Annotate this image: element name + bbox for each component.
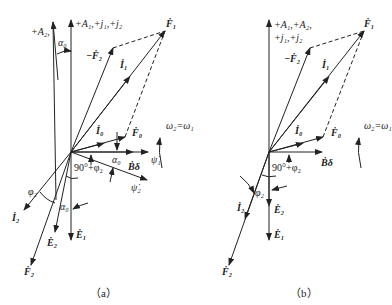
a-label-alpha0-top: α₀	[58, 38, 67, 48]
a-label-psi1: ψ̇₁	[151, 155, 161, 165]
a-label-I1: İ₁	[120, 60, 127, 70]
b-omega-arc	[358, 138, 361, 168]
a-label-E1: Ė₁	[76, 230, 86, 240]
a-label-90-phi2: 90°+φ₂	[74, 163, 103, 173]
a-label-F0: Ḟ₀	[132, 128, 142, 138]
b-label-phi2: φ₂	[255, 188, 264, 198]
b-label-E1: Ė₁	[274, 230, 284, 240]
a-label-alpha0-mid: α₀	[112, 155, 121, 165]
a-label-phi2: φ₂	[28, 187, 37, 197]
b-label-90-phi2: 90°+φ₂	[272, 163, 301, 173]
b-label-axis-2: +j₁,+j₂	[274, 33, 303, 43]
a-label-A1: +A₁,+j₁,+j₂	[75, 19, 122, 29]
b-label-neg-F2: −Ḟ₂	[284, 54, 300, 64]
b-label-I0: İ₀	[295, 126, 302, 136]
a-label-F2: Ḟ₂	[24, 267, 34, 277]
b-label-I1: İ₁	[322, 60, 329, 70]
b-label-E2: Ė₂	[274, 205, 284, 215]
a-label-E2: Ė₂	[47, 238, 57, 248]
a-alpha0-arc-top	[57, 51, 71, 54]
b-label-F1: Ḟ₁	[364, 19, 374, 29]
a-label-psi2: ψ̇₂	[131, 183, 141, 193]
a-label-I2: İ₂	[12, 213, 19, 223]
caption-a: （a）	[90, 284, 117, 300]
b-label-omega: ω₂=ω₁	[364, 121, 392, 131]
a-label-alpha0-low: α₀	[60, 202, 69, 212]
a-label-neg-F2: −Ḟ₂	[86, 51, 102, 61]
a-label-omega: ω₂=ω₁	[166, 121, 194, 131]
a-vector-neg-F2	[71, 48, 113, 152]
b-label-I2: İ₂	[237, 203, 244, 213]
a-vector-E2	[55, 152, 71, 232]
a-label-I0: İ₀	[96, 126, 103, 136]
a-label-B-delta: Ḃδ	[128, 162, 140, 172]
caption-b: （b）	[290, 284, 318, 300]
b-label-axis-1: +A₁,+A₂,	[274, 20, 312, 30]
a-label-A2: +A₂,	[31, 27, 50, 37]
b-label-B-delta: Ḃδ	[321, 158, 333, 168]
b-label-F0: Ḟ₀	[331, 128, 341, 138]
b-vector-I2	[246, 152, 269, 216]
b-label-F2: Ḟ₂	[222, 267, 232, 277]
a-label-F1: Ḟ₁	[166, 19, 176, 29]
